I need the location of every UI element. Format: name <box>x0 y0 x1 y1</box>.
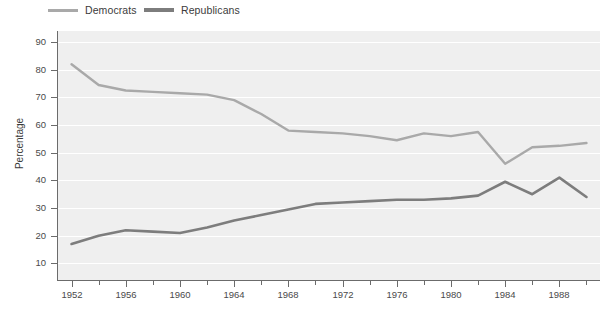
series-line-republicans <box>72 178 587 244</box>
x-tick-minor <box>315 281 316 285</box>
y-tick <box>51 263 57 264</box>
x-tick-label: 1984 <box>485 289 525 300</box>
y-axis-title: Percentage <box>14 104 25 184</box>
x-tick-minor <box>370 281 371 285</box>
x-tick-major <box>343 281 344 287</box>
x-tick-major <box>72 281 73 287</box>
x-tick-major <box>180 281 181 287</box>
plot-wrapper: Percentage 102030405060708090 1952195619… <box>0 0 604 316</box>
x-axis-line <box>57 280 600 281</box>
x-tick-minor <box>99 281 100 285</box>
x-tick-minor <box>424 281 425 285</box>
y-tick <box>51 180 57 181</box>
x-tick-major <box>288 281 289 287</box>
x-tick-minor <box>478 281 479 285</box>
y-tick-label: 20 <box>18 230 46 241</box>
y-tick-label: 90 <box>18 36 46 47</box>
y-tick-label: 30 <box>18 202 46 213</box>
plot-area <box>58 31 600 280</box>
x-tick-label: 1976 <box>377 289 417 300</box>
y-tick-label: 70 <box>18 91 46 102</box>
y-tick <box>51 208 57 209</box>
x-tick-minor <box>207 281 208 285</box>
x-tick-label: 1960 <box>160 289 200 300</box>
y-tick-label: 60 <box>18 119 46 130</box>
y-tick <box>51 97 57 98</box>
x-tick-major <box>451 281 452 287</box>
x-tick-label: 1956 <box>106 289 146 300</box>
x-tick-major <box>397 281 398 287</box>
x-tick-minor <box>261 281 262 285</box>
y-tick-label: 50 <box>18 147 46 158</box>
y-tick-label: 10 <box>18 257 46 268</box>
x-tick-label: 1968 <box>268 289 308 300</box>
y-tick-label: 40 <box>18 174 46 185</box>
y-tick <box>51 70 57 71</box>
series-line-democrats <box>72 64 587 164</box>
x-tick-label: 1972 <box>323 289 363 300</box>
x-tick-minor <box>532 281 533 285</box>
x-tick-minor <box>153 281 154 285</box>
x-tick-label: 1964 <box>214 289 254 300</box>
x-tick-minor <box>586 281 587 285</box>
y-tick <box>51 153 57 154</box>
chart-root: Democrats Republicans Percentage 1020304… <box>0 0 604 316</box>
x-tick-major <box>505 281 506 287</box>
y-tick <box>51 42 57 43</box>
x-tick-label: 1980 <box>431 289 471 300</box>
y-tick <box>51 236 57 237</box>
x-tick-major <box>234 281 235 287</box>
series-lines <box>58 31 600 280</box>
y-tick-label: 80 <box>18 64 46 75</box>
y-tick <box>51 125 57 126</box>
x-tick-label: 1952 <box>52 289 92 300</box>
x-tick-major <box>559 281 560 287</box>
x-tick-major <box>126 281 127 287</box>
x-tick-label: 1988 <box>539 289 579 300</box>
